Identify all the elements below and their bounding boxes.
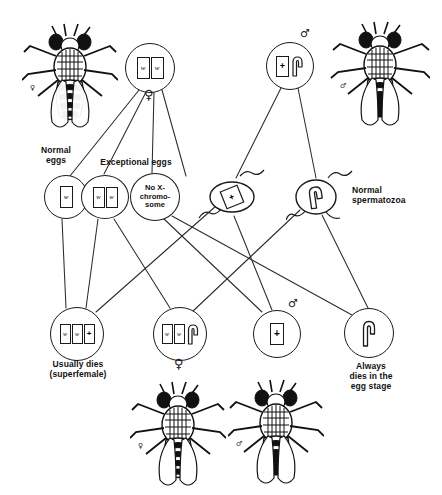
mother-genotype-circle[interactable]: w w (125, 43, 175, 93)
offspring-yo-dies[interactable] (344, 308, 394, 358)
chromosome-x-w: w (106, 187, 118, 208)
father-chromosome-pair: + (276, 55, 304, 77)
line-egg-nullo-to-yo (172, 216, 352, 315)
daughter-fly-sex-symbol: ♀ (138, 442, 143, 450)
son-fly: ♂ (228, 378, 324, 490)
chromosome-x-plus: + (270, 323, 284, 345)
chromosome-y-hook (360, 319, 378, 347)
mother-fly-sex-symbol: ♀ (30, 84, 35, 92)
chromosome-x-w: w (162, 324, 173, 344)
chromosome-x-plus: + (84, 324, 95, 344)
wwy-chromosomes: w w (162, 323, 199, 345)
chromosome-x-w: w (93, 187, 105, 208)
chromosome-x-w: w (60, 324, 71, 344)
line-father-to-sperm-x (236, 88, 281, 178)
chromosome-y-hook (290, 55, 304, 77)
line-egg-normal-to-superfemale (62, 219, 66, 308)
mother-sex-symbol: ♀ (144, 88, 154, 101)
father-fly-sex-symbol: ♂ (340, 82, 346, 90)
chromosome-x-w: w (137, 57, 150, 79)
superfemale-label: Usually dies (superfemale) (14, 360, 142, 380)
mother-fly: ♀ (22, 22, 118, 134)
red-eyed-male-sex-symbol: ♂ (288, 298, 298, 309)
egg-exceptional-nullo-x[interactable]: No X- chromo- some (130, 173, 180, 221)
exceptional-eggs-label: Exceptional eggs (86, 158, 186, 168)
mother-chromosome-pair: w w (137, 57, 164, 79)
line-egg-nullo-to-male (164, 219, 262, 312)
son-fly-sex-symbol: ♂ (236, 440, 242, 448)
superfemale-chromosomes: w w + (60, 324, 95, 344)
yo-dies-label: Always dies in the egg stage (326, 362, 416, 391)
egg-ww-chromosomes: w w (93, 187, 118, 208)
father-sex-symbol: ♂ (300, 28, 310, 39)
line-egg-ww-to-wwy-female (114, 219, 170, 308)
no-x-chromosome-text: No X- chromo- some (131, 184, 179, 210)
chromosome-y-hook (186, 323, 199, 345)
line-egg-ww-to-superfemale (86, 219, 98, 308)
wwy-female-sex-symbol: ♀ (174, 357, 184, 370)
chromosome-x-w: w (72, 324, 83, 344)
chromosome-x-plus: + (276, 56, 289, 77)
offspring-red-eyed-male[interactable]: + (253, 310, 301, 358)
chromosome-x-w: w (60, 186, 73, 208)
offspring-white-eyed-female[interactable]: w w (153, 307, 207, 361)
diagram-canvas: ♀ (0, 0, 442, 495)
chromosome-x-w: w (151, 57, 164, 79)
father-fly: ♂ (330, 20, 430, 132)
offspring-superfemale[interactable]: w w + (50, 307, 104, 361)
line-father-to-sperm-y (298, 88, 316, 178)
chromosome-x-w: w (174, 324, 185, 344)
father-genotype-circle[interactable]: + (266, 42, 314, 90)
line-sperm-y-to-yo (322, 215, 368, 308)
normal-eggs-label: Normal eggs (26, 146, 86, 166)
normal-spermatozoa-label: Normal spermatozoa (352, 186, 438, 206)
line-sperm-x-to-male (234, 216, 272, 310)
daughter-fly: ♀ (130, 380, 226, 492)
egg-exceptional-ww[interactable]: w w (81, 175, 129, 219)
